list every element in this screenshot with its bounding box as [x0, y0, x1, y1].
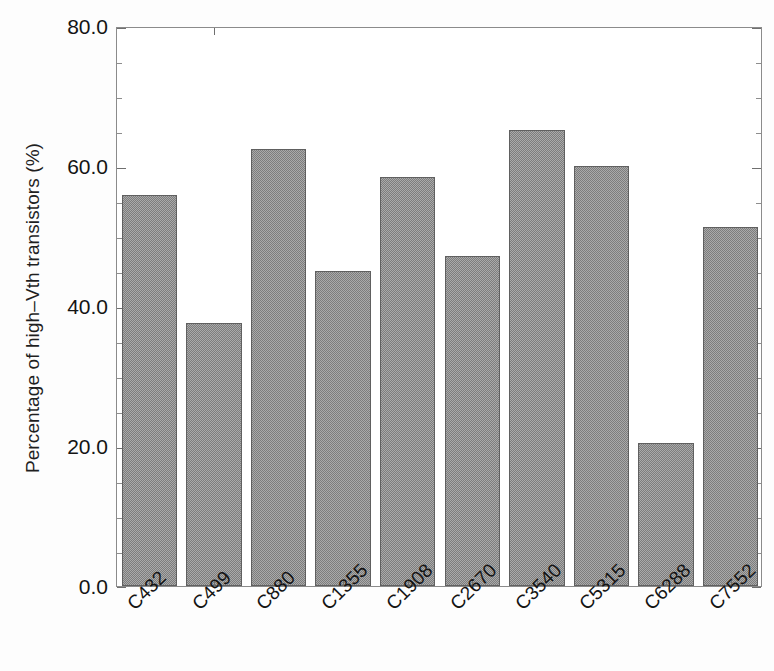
y-tick-label: 0.0: [18, 575, 108, 599]
bar: [380, 177, 435, 587]
y-tick-label: 60.0: [18, 155, 108, 179]
bar: [445, 256, 500, 586]
bar: [122, 195, 177, 586]
bar: [509, 130, 564, 586]
y-axis-minor-tick: [756, 133, 761, 134]
y-tick-label: 20.0: [18, 435, 108, 459]
y-axis-minor-tick: [117, 133, 122, 134]
bar: [186, 323, 241, 586]
y-axis-major-tick: [117, 28, 126, 29]
bar: [251, 149, 306, 587]
y-axis-minor-tick: [756, 98, 761, 99]
bar: [315, 271, 370, 586]
bar: [703, 227, 758, 586]
bar-chart-figure: Percentage of high–Vth transistors (%) 0…: [0, 0, 774, 671]
bar: [574, 166, 629, 586]
y-tick-label: 40.0: [18, 295, 108, 319]
y-axis-minor-tick: [117, 63, 122, 64]
y-axis-major-tick: [117, 168, 126, 169]
plot-area: [116, 27, 762, 587]
y-axis-tick-labels: 0.020.040.060.080.0: [18, 0, 108, 671]
y-axis-major-tick: [752, 28, 761, 29]
y-axis-minor-tick: [117, 98, 122, 99]
x-axis-tick-labels: C432C499C880C1355C1908C2670C3540C5315C62…: [116, 587, 762, 671]
y-axis-major-tick: [752, 168, 761, 169]
y-tick-label: 80.0: [18, 15, 108, 39]
x-axis-top-tick: [214, 28, 215, 35]
y-axis-minor-tick: [756, 203, 761, 204]
y-axis-minor-tick: [756, 63, 761, 64]
